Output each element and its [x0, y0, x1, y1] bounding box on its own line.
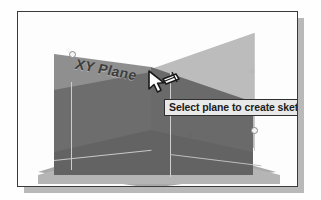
tooltip-text: Select plane to create sketch or	[169, 102, 297, 113]
screenshot-root: XY Plane Select plane to cre	[0, 0, 321, 200]
plane-selection-tooltip: Select plane to create sketch or	[164, 99, 297, 116]
viewport-canvas[interactable]: XY Plane Select plane to cre	[18, 12, 297, 186]
cad-3d-viewport[interactable]: XY Plane Select plane to cre	[17, 11, 298, 187]
vertex-marker-bottom-right[interactable]	[251, 127, 258, 134]
sketch-plane-cursor	[146, 69, 180, 99]
cursor-pointer-icon	[146, 69, 180, 99]
vertex-marker-top-left[interactable]	[69, 51, 76, 58]
sketch-plane-badge-icon	[163, 72, 179, 84]
edge-left-outer	[71, 82, 72, 170]
